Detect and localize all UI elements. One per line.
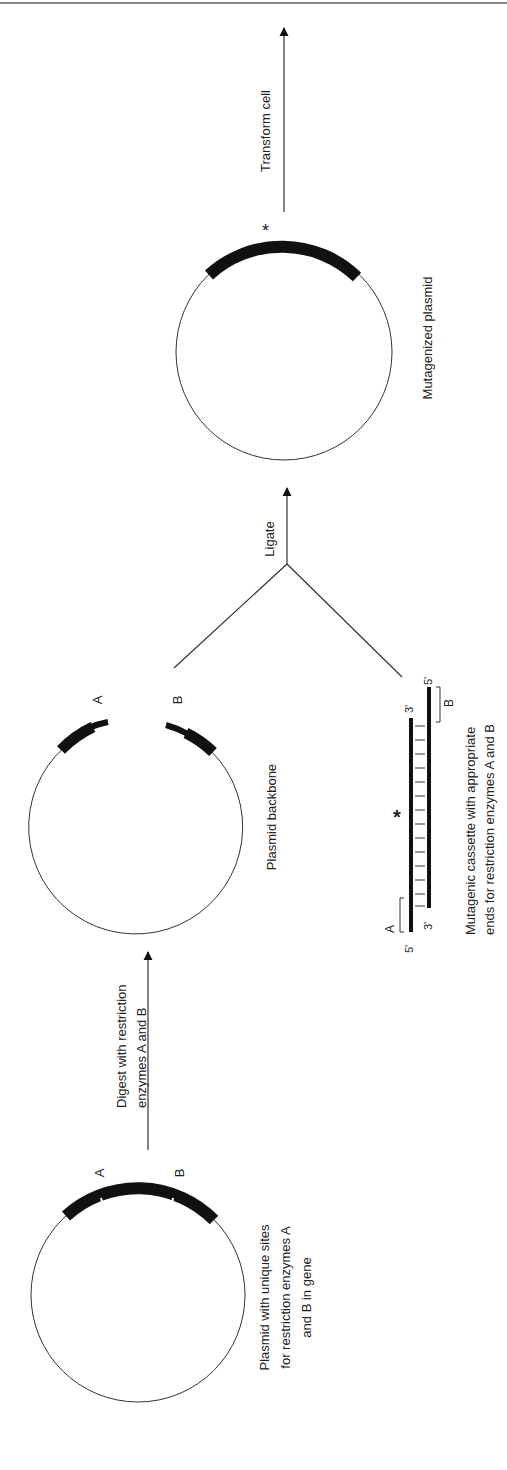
backbone-site-b-label: B — [169, 696, 187, 705]
plasmid-backbone — [29, 722, 243, 934]
bottom-strand-5prime: 5' — [419, 677, 437, 685]
bottom-strand-3prime: 3' — [419, 922, 437, 930]
cassette-site-a-label: A — [381, 925, 399, 933]
top-strand-3prime: 3' — [400, 705, 418, 713]
cassette-site-b-label: B — [440, 699, 458, 707]
gene-segment — [66, 1188, 214, 1220]
cassette-mutation-asterisk: * — [393, 808, 401, 826]
original-plasmid — [31, 1188, 245, 1402]
mutated-gene-segment — [209, 247, 357, 277]
digest-label-line: enzymes A and B — [132, 968, 152, 1108]
caption-line: for restriction enzymes A — [275, 1208, 296, 1388]
ligate-branch-left — [174, 564, 287, 668]
original-plasmid-caption: Plasmid with unique sites for restrictio… — [254, 1208, 317, 1388]
mutation-asterisk: * — [262, 222, 269, 240]
digest-label-line: Digest with restriction — [112, 968, 132, 1108]
caption-line: and B in gene — [296, 1208, 317, 1388]
mutagenic-cassette — [400, 687, 440, 932]
transform-label: Transform cell — [257, 86, 275, 176]
ligate-branch-right — [287, 564, 402, 677]
original-site-b-label: B — [171, 1169, 189, 1178]
mutagenized-plasmid — [176, 244, 392, 460]
backbone-caption: Plasmid backbone — [263, 762, 281, 872]
original-site-a-label: A — [91, 1169, 109, 1178]
caption-line: Mutagenic cassette with appropriate — [461, 675, 480, 935]
top-strand-5prime: 5' — [400, 945, 418, 953]
mutagenized-caption: Mutagenized plasmid — [419, 273, 437, 403]
caption-line: ends for restriction enzymes A and B — [480, 675, 499, 935]
caption-line: Plasmid with unique sites — [254, 1208, 275, 1388]
cassette-caption: Mutagenic cassette with appropriate ends… — [461, 675, 499, 935]
backbone-site-a-label: A — [89, 696, 107, 705]
digest-label: Digest with restriction enzymes A and B — [112, 968, 152, 1108]
ligate-label: Ligate — [261, 521, 279, 556]
